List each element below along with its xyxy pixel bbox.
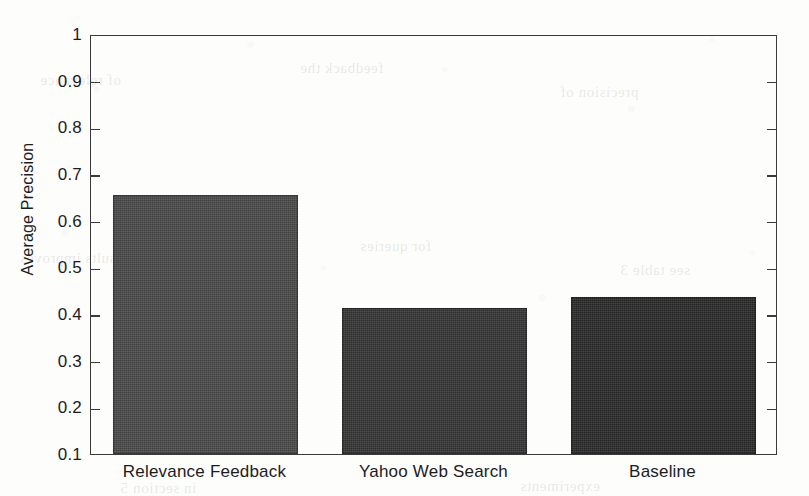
y-axis-tick-label: 0.4 <box>58 305 82 325</box>
bar-baseline[interactable] <box>571 297 755 454</box>
y-axis-tick-mark <box>91 222 100 224</box>
y-axis-tick-mark <box>767 362 776 364</box>
y-axis-tick-mark <box>767 82 776 84</box>
y-axis-tick-label: 0.1 <box>58 445 82 465</box>
x-axis-tick-labels: Relevance FeedbackYahoo Web SearchBaseli… <box>90 462 777 490</box>
y-axis-tick-mark <box>767 315 776 317</box>
x-axis-tick-label: Relevance Feedback <box>123 462 286 482</box>
y-axis-tick-label: 0.9 <box>58 72 82 92</box>
y-axis-tick-label: 0.2 <box>58 398 82 418</box>
y-axis-tick-mark <box>767 409 776 411</box>
figure-canvas: of relevance feedback the precision of r… <box>0 0 809 496</box>
y-axis-tick-mark <box>91 269 100 271</box>
y-axis-tick-mark <box>91 315 100 317</box>
plot-area <box>90 35 777 455</box>
y-axis-tick-mark <box>91 362 100 364</box>
y-axis-tick-label: 0.5 <box>58 258 82 278</box>
y-axis-tick-labels: 0.10.20.30.40.50.60.70.80.91 <box>0 35 82 455</box>
y-axis-tick-label: 0.3 <box>58 352 82 372</box>
y-axis-tick-label: 0.7 <box>58 165 82 185</box>
bar-fill <box>113 195 297 454</box>
y-axis-tick-mark <box>767 222 776 224</box>
y-axis-tick-label: 0.6 <box>58 212 82 232</box>
y-axis-tick-mark <box>91 409 100 411</box>
bar-fill <box>571 297 755 454</box>
bar-fill <box>342 308 526 454</box>
y-axis-tick-mark <box>767 175 776 177</box>
y-axis-tick-mark <box>767 129 776 131</box>
y-axis-tick-mark <box>91 82 100 84</box>
y-axis-tick-label: 1 <box>72 25 82 45</box>
x-axis-tick-label: Yahoo Web Search <box>359 462 508 482</box>
y-axis-tick-mark <box>767 269 776 271</box>
y-axis-tick-mark <box>91 129 100 131</box>
bar-yahoo-web-search[interactable] <box>342 308 526 454</box>
x-axis-tick-label: Baseline <box>629 462 696 482</box>
y-axis-tick-mark <box>91 175 100 177</box>
y-axis-tick-label: 0.8 <box>58 118 82 138</box>
bar-relevance-feedback[interactable] <box>113 195 297 454</box>
